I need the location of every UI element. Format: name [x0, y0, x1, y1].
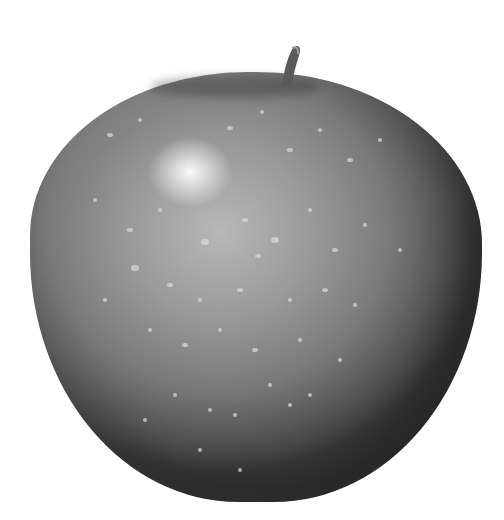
apple-speckles	[93, 110, 402, 472]
apple-photo	[0, 0, 504, 520]
apple-details	[0, 0, 504, 520]
apple-stem	[282, 46, 300, 88]
